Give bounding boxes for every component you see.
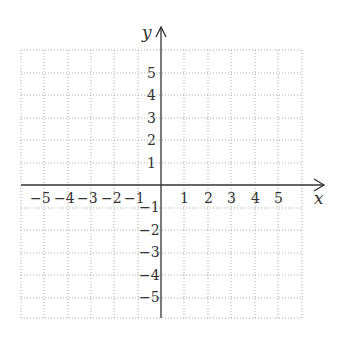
y-tick-3: 3 [147, 110, 156, 126]
y-tick-neg4: −4 [139, 267, 160, 283]
x-tick-1: 1 [180, 190, 189, 206]
grid-svg: y x −5 −4 −3 −2 −1 1 2 3 4 5 5 4 3 2 1 −… [0, 0, 341, 343]
x-tick-5: 5 [274, 190, 283, 206]
x-tick-2: 2 [204, 190, 213, 206]
y-tick-neg2: −2 [139, 222, 160, 238]
y-tick-neg1: −1 [139, 199, 160, 215]
x-tick-neg3: −3 [77, 190, 98, 206]
y-tick-5: 5 [147, 65, 156, 81]
x-tick-neg4: −4 [54, 190, 75, 206]
y-tick-neg5: −5 [139, 289, 160, 305]
axes [21, 27, 324, 318]
y-tick-2: 2 [147, 132, 156, 148]
coordinate-plane: y x −5 −4 −3 −2 −1 1 2 3 4 5 5 4 3 2 1 −… [0, 0, 341, 343]
x-tick-4: 4 [251, 190, 260, 206]
y-tick-4: 4 [147, 87, 156, 103]
x-tick-3: 3 [227, 190, 236, 206]
y-axis-label: y [141, 22, 152, 42]
y-tick-1: 1 [147, 155, 156, 171]
y-tick-neg3: −3 [139, 244, 160, 260]
x-tick-neg2: −2 [101, 190, 122, 206]
x-axis-label: x [314, 188, 324, 208]
x-tick-neg5: −5 [30, 190, 51, 206]
